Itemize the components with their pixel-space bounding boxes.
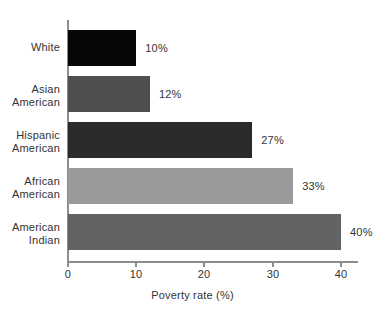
category-label-line1: African (0, 175, 60, 188)
category-label-line1: White (0, 41, 60, 54)
bar-asian-american (68, 76, 150, 112)
x-tick-1 (135, 262, 137, 267)
bar-value-african-american: 33% (302, 168, 325, 204)
category-label-line2: American (0, 96, 60, 109)
x-tick-0 (67, 262, 69, 267)
poverty-rate-bar-chart: 0 10 20 30 40 White Asian American Hispa… (0, 0, 385, 322)
x-tick-label-1: 10 (116, 268, 156, 280)
category-label-line1: Asian (0, 83, 60, 96)
bar-value-hispanic-american: 27% (261, 122, 284, 158)
category-label-american-indian: American Indian (0, 221, 60, 247)
bar-hispanic-american (68, 122, 252, 158)
bar-value-asian-american: 12% (159, 76, 182, 112)
x-tick-label-0: 0 (48, 268, 88, 280)
category-label-line2: American (0, 188, 60, 201)
x-tick-label-2: 20 (184, 268, 224, 280)
x-tick-3 (272, 262, 274, 267)
x-axis-title: Poverty rate (%) (0, 289, 385, 301)
category-label-line1: American (0, 221, 60, 234)
category-label-line2: Indian (0, 234, 60, 247)
bar-african-american (68, 168, 293, 204)
category-label-african-american: African American (0, 175, 60, 201)
x-tick-2 (203, 262, 205, 267)
category-label-asian-american: Asian American (0, 83, 60, 109)
category-label-line1: Hispanic (0, 129, 60, 142)
x-tick-label-3: 30 (253, 268, 293, 280)
bar-american-indian (68, 214, 341, 250)
x-tick-4 (340, 262, 342, 267)
bar-white (68, 30, 136, 66)
x-tick-label-4: 40 (321, 268, 361, 280)
bar-value-american-indian: 40% (350, 214, 373, 250)
category-label-white: White (0, 41, 60, 54)
category-label-hispanic-american: Hispanic American (0, 129, 60, 155)
category-label-line2: American (0, 142, 60, 155)
x-axis-line (67, 261, 358, 263)
bar-value-white: 10% (145, 30, 168, 66)
